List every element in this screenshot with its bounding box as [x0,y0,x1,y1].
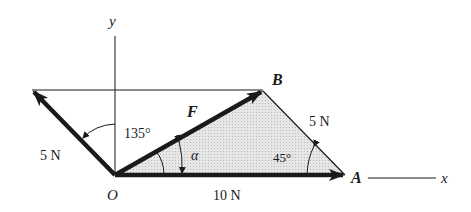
angle-alpha-label: α [191,148,199,163]
point-b-label: B [271,71,283,88]
y-axis-label: y [107,13,116,29]
force-10n-label: 10 N [213,188,241,203]
point-a-label: A [350,169,362,186]
origin-o-label: O [107,187,118,203]
force-5n-left-label: 5 N [40,148,61,163]
force-diagram: y B F 5 N 135° 5 N α 45° O 10 N A x [0,0,471,212]
resultant-f-label: F [186,103,198,120]
force-5n-ab-label: 5 N [309,114,330,129]
angle-45-label: 45° [273,150,291,165]
angle-arc-135 [83,124,115,138]
x-axis-label: x [440,170,448,186]
angle-135-label: 135° [124,126,151,141]
